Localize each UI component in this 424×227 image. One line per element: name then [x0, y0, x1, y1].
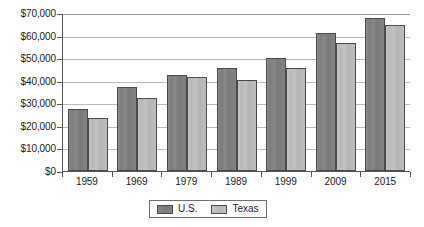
legend-swatch-texas-icon	[211, 205, 227, 214]
bar-group	[63, 14, 113, 171]
x-axis-tick-label: 1959	[62, 174, 112, 190]
bar-us-1989[interactable]	[217, 68, 237, 171]
x-axis: 1959196919791989199920092015	[62, 174, 410, 190]
bar-us-2015[interactable]	[365, 18, 385, 171]
bar-texas-1999[interactable]	[286, 68, 306, 171]
legend-label-us: U.S.	[178, 204, 197, 214]
x-axis-tick-label: 1979	[161, 174, 211, 190]
x-axis-tick-mark	[410, 172, 411, 177]
x-axis-tick-label: 1999	[261, 174, 311, 190]
bar-group	[113, 14, 163, 171]
bar-group	[212, 14, 262, 171]
bar-group	[311, 14, 361, 171]
x-axis-tick-label: 1969	[112, 174, 162, 190]
bar-group	[360, 14, 410, 171]
legend: U.S. Texas	[149, 200, 267, 218]
bar-us-1959[interactable]	[68, 109, 88, 171]
bar-us-1999[interactable]	[266, 58, 286, 171]
y-axis-tick-label: $70,000	[0, 9, 56, 19]
y-axis-tick-label: $30,000	[0, 99, 56, 109]
bar-texas-2009[interactable]	[336, 43, 356, 171]
legend-label-texas: Texas	[232, 204, 258, 214]
plot-area	[62, 14, 410, 172]
bar-texas-1959[interactable]	[88, 118, 108, 171]
legend-entry-us[interactable]: U.S.	[157, 204, 197, 214]
legend-entry-texas[interactable]: Texas	[211, 204, 258, 214]
bar-us-1979[interactable]	[167, 75, 187, 171]
y-axis-tick-label: $0	[0, 167, 56, 177]
x-axis-tick-label: 2015	[360, 174, 410, 190]
x-axis-tick-label: 1989	[211, 174, 261, 190]
x-axis-tick-label: 2009	[311, 174, 361, 190]
y-axis-tick-label: $50,000	[0, 54, 56, 64]
bar-group	[162, 14, 212, 171]
legend-swatch-us-icon	[157, 205, 173, 214]
bar-chart: $0$10,000$20,000$30,000$40,000$50,000$60…	[0, 0, 424, 227]
y-axis-tick-label: $40,000	[0, 77, 56, 87]
y-axis-tick-label: $10,000	[0, 144, 56, 154]
bar-texas-1989[interactable]	[237, 80, 257, 171]
bar-us-1969[interactable]	[117, 87, 137, 171]
bar-texas-1979[interactable]	[187, 77, 207, 171]
y-axis-tick-label: $20,000	[0, 122, 56, 132]
bar-us-2009[interactable]	[316, 33, 336, 171]
bar-groups	[63, 14, 410, 171]
bar-texas-1969[interactable]	[137, 98, 157, 171]
y-axis-tick-label: $60,000	[0, 32, 56, 42]
bar-group	[261, 14, 311, 171]
bar-texas-2015[interactable]	[385, 25, 405, 171]
